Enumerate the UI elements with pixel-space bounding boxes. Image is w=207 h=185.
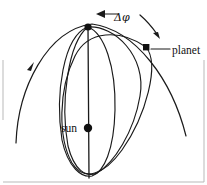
apsis-axis-line	[88, 27, 89, 178]
precession-arrow-right-shaft	[140, 15, 157, 34]
precession-arrow-right-head-icon	[153, 32, 160, 39]
direction-arrowhead-icon	[27, 62, 34, 71]
orbit-ellipse-2	[65, 27, 141, 175]
outer-bounding-arc	[16, 24, 186, 143]
planet-label: planet	[172, 44, 201, 57]
figure-root: Δφ sun planet	[0, 0, 207, 185]
precession-angle-label: Δφ	[113, 11, 130, 24]
planet-marker	[143, 44, 149, 50]
sun-marker	[84, 124, 92, 132]
orbit-diagram-svg: Δφ sun planet	[0, 0, 207, 185]
precession-arrow-left-head-icon	[96, 10, 105, 18]
sun-label: sun	[61, 122, 77, 134]
apsis-node-marker	[84, 23, 91, 30]
